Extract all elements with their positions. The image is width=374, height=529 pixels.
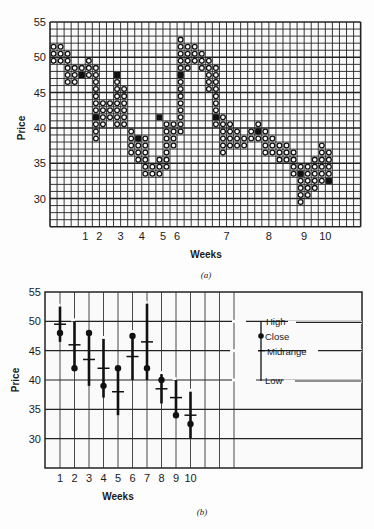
x-mark	[192, 51, 197, 56]
x-mark	[214, 108, 219, 113]
close-dot	[158, 377, 164, 383]
x-mark	[228, 129, 233, 134]
x-mark	[277, 150, 282, 155]
x-mark	[277, 143, 282, 148]
x-mark	[178, 115, 183, 120]
x-mark	[178, 87, 183, 92]
close-dot	[86, 330, 92, 336]
close-dot	[187, 421, 193, 427]
x-mark	[319, 157, 324, 162]
x-mark	[143, 136, 148, 141]
x-mark	[122, 108, 127, 113]
x-tick-label: 3	[118, 230, 124, 242]
x-mark	[291, 157, 296, 162]
y-tick-label: 45	[29, 345, 41, 357]
x-mark	[164, 122, 169, 127]
x-mark	[326, 150, 331, 155]
x-tick-label: 1	[57, 472, 63, 484]
x-mark	[129, 150, 134, 155]
legend-close-dot	[258, 333, 264, 339]
x-mark	[256, 136, 261, 141]
x-mark	[122, 122, 127, 127]
x-mark	[93, 65, 98, 70]
x-mark	[171, 122, 176, 127]
x-mark	[178, 94, 183, 99]
x-mark	[65, 73, 70, 78]
x-mark	[93, 94, 98, 99]
x-mark	[305, 193, 310, 198]
x-mark	[192, 58, 197, 63]
x-mark	[65, 65, 70, 70]
y-tick-label: 40	[34, 122, 46, 134]
x-tick-label: 2	[71, 472, 77, 484]
x-mark	[305, 178, 310, 183]
x-tick-label: 1	[82, 230, 88, 242]
x-mark	[51, 51, 56, 56]
close-dot	[129, 333, 135, 339]
x-mark	[178, 122, 183, 127]
x-mark	[228, 136, 233, 141]
close-dot	[173, 412, 179, 418]
x-mark	[263, 143, 268, 148]
x-mark	[143, 143, 148, 148]
x-mark	[326, 171, 331, 176]
x-mark	[284, 143, 289, 148]
x-mark	[115, 122, 120, 127]
x-mark	[101, 115, 106, 120]
x-mark	[157, 171, 162, 176]
x-mark	[214, 65, 219, 70]
x-mark	[108, 108, 113, 113]
close-marker	[255, 128, 261, 134]
x-mark	[164, 164, 169, 169]
x-mark	[305, 186, 310, 191]
x-mark	[249, 129, 254, 134]
x-mark	[178, 101, 183, 106]
x-mark	[136, 143, 141, 148]
x-mark	[319, 178, 324, 183]
x-tick-label: 4	[139, 230, 145, 242]
x-mark	[164, 143, 169, 148]
x-mark	[284, 157, 289, 162]
x-mark	[65, 51, 70, 56]
x-tick-label: 9	[173, 472, 179, 484]
x-mark	[214, 94, 219, 99]
y-tick-label: 40	[29, 374, 41, 386]
y-tick-label: 30	[34, 193, 46, 205]
x-mark	[242, 136, 247, 141]
x-mark	[122, 94, 127, 99]
x-mark	[65, 58, 70, 63]
x-mark	[185, 51, 190, 56]
x-mark	[178, 108, 183, 113]
x-mark	[199, 65, 204, 70]
close-marker	[135, 135, 141, 141]
x-mark	[72, 73, 77, 78]
y-tick-label: 50	[29, 315, 41, 327]
close-marker	[114, 72, 120, 78]
close-marker	[93, 114, 99, 120]
x-mark	[270, 143, 275, 148]
x-mark	[192, 44, 197, 49]
y-tick-label: 35	[29, 403, 41, 415]
x-mark	[58, 58, 63, 63]
x-mark	[312, 186, 317, 191]
x-mark	[143, 164, 148, 169]
x-mark	[143, 157, 148, 162]
x-mark	[115, 115, 120, 120]
x-mark	[115, 87, 120, 92]
x-mark	[277, 157, 282, 162]
x-mark	[86, 65, 91, 70]
y-tick-label: 30	[29, 433, 41, 445]
x-mark	[291, 150, 296, 155]
x-mark	[221, 136, 226, 141]
x-mark	[263, 129, 268, 134]
x-tick-label: 10	[319, 230, 331, 242]
x-tick-label: 5	[160, 230, 166, 242]
close-marker	[156, 114, 162, 120]
x-mark	[101, 108, 106, 113]
x-tick-label: 6	[129, 472, 135, 484]
x-mark	[235, 143, 240, 148]
x-mark	[178, 37, 183, 42]
x-mark	[298, 178, 303, 183]
x-mark	[122, 115, 127, 120]
y-tick-label: 35	[34, 157, 46, 169]
